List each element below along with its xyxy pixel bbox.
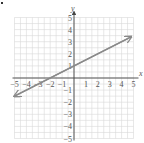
- svg-text:−4: −4: [63, 122, 72, 131]
- x-axis-label: x: [138, 69, 143, 78]
- svg-text:−2: −2: [63, 98, 72, 107]
- svg-text:−3: −3: [63, 110, 72, 119]
- svg-text:−2: −2: [46, 80, 55, 89]
- svg-text:4: 4: [68, 26, 72, 35]
- svg-text:−1: −1: [63, 86, 72, 95]
- svg-text:5: 5: [68, 14, 72, 23]
- svg-text:1: 1: [84, 80, 88, 89]
- coordinate-plane: −5−4−3−2−11234554321−1−2−3−4−5 x y: [0, 0, 144, 142]
- svg-text:3: 3: [108, 80, 112, 89]
- svg-text:2: 2: [68, 50, 72, 59]
- svg-text:1: 1: [68, 62, 72, 71]
- svg-text:2: 2: [96, 80, 100, 89]
- svg-text:3: 3: [68, 38, 72, 47]
- svg-text:4: 4: [120, 80, 124, 89]
- y-axis-label: y: [70, 4, 75, 13]
- svg-text:−4: −4: [22, 80, 31, 89]
- svg-text:5: 5: [132, 80, 136, 89]
- svg-text:−5: −5: [10, 80, 19, 89]
- data-line: [15, 37, 132, 96]
- axes: [13, 12, 139, 141]
- svg-text:−5: −5: [63, 135, 72, 143]
